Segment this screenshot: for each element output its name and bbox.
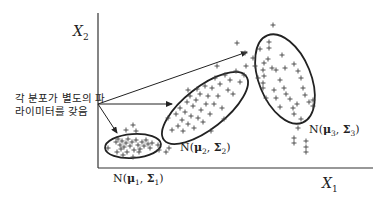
annotation-line-1: 각 분포가 별도의 파 [15, 92, 105, 104]
annotation-arrows [98, 52, 247, 133]
annotation-line-2: 라이미터를 갖음 [15, 105, 88, 117]
x-axis-label: X1 [322, 175, 338, 194]
cluster-2-points [166, 64, 249, 134]
y-axis-label: X2 [73, 23, 89, 42]
cluster-3-ellipse [243, 26, 326, 133]
distribution-3-label: N(μ3, Σ3) [309, 123, 360, 138]
distribution-1-label: N(μ1, Σ1) [113, 172, 164, 187]
distribution-2-label: N(μ2, Σ2) [180, 141, 231, 156]
cluster-1-points [106, 123, 172, 160]
annotation-label: 각 분포가 별도의 파 라이미터를 갖음 [15, 92, 105, 118]
